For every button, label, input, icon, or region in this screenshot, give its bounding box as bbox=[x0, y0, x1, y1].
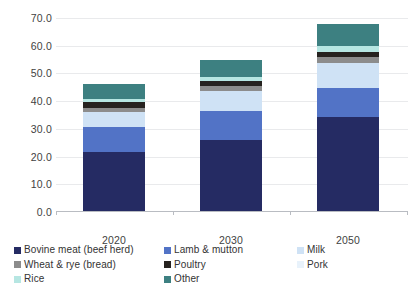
y-tick-label: 70.0 bbox=[6, 12, 52, 24]
bar-group-2030[interactable] bbox=[200, 18, 262, 211]
plot-wrapper: 70.0 60.0 50.0 40.0 30.0 20.0 10.0 0.0 bbox=[0, 0, 418, 232]
legend-item-rice[interactable]: Rice bbox=[14, 272, 164, 287]
legend-swatch-icon bbox=[14, 261, 21, 268]
legend-label: Lamb & mutton bbox=[174, 245, 243, 255]
y-tick-label: 30.0 bbox=[6, 123, 52, 135]
y-axis: 70.0 60.0 50.0 40.0 30.0 20.0 10.0 0.0 bbox=[0, 0, 52, 232]
legend-item-bovine-meat[interactable]: Bovine meat (beef herd) bbox=[14, 243, 164, 258]
axis-tick bbox=[173, 212, 174, 215]
legend-column-2: Lamb & mutton Poultry Other bbox=[164, 243, 294, 287]
y-tick-label: 40.0 bbox=[6, 95, 52, 107]
legend-item-poultry[interactable]: Poultry bbox=[164, 258, 294, 273]
bar-segment-other[interactable] bbox=[317, 24, 379, 46]
legend-swatch-icon bbox=[164, 247, 171, 254]
bar-segment-bovine-meat[interactable] bbox=[200, 140, 262, 211]
bar-segment-milk[interactable] bbox=[317, 63, 379, 88]
y-tick-label: 50.0 bbox=[6, 67, 52, 79]
bar-segment-other[interactable] bbox=[200, 60, 262, 77]
y-tick-label: 60.0 bbox=[6, 40, 52, 52]
legend-swatch-icon bbox=[297, 247, 304, 254]
bar-segment-lamb-mutton[interactable] bbox=[200, 111, 262, 140]
legend-item-milk[interactable]: Milk bbox=[297, 243, 407, 258]
legend-label: Rice bbox=[24, 274, 44, 284]
legend-swatch-icon bbox=[14, 247, 21, 254]
bar-segment-bovine-meat[interactable] bbox=[83, 152, 145, 211]
legend-label: Bovine meat (beef herd) bbox=[24, 245, 134, 255]
legend-item-lamb-mutton[interactable]: Lamb & mutton bbox=[164, 243, 294, 258]
legend-swatch-icon bbox=[14, 276, 21, 283]
legend-swatch-icon bbox=[164, 261, 171, 268]
legend-swatch-icon bbox=[164, 276, 171, 283]
legend-label: Milk bbox=[307, 245, 325, 255]
bar-segment-lamb-mutton[interactable] bbox=[83, 127, 145, 152]
bar-group-2020[interactable] bbox=[83, 18, 145, 211]
plot-area: 2020 2030 2050 bbox=[56, 18, 408, 212]
chart-legend: Bovine meat (beef herd) Wheat & rye (bre… bbox=[14, 243, 410, 289]
bar-segment-milk[interactable] bbox=[83, 112, 145, 127]
x-axis-line bbox=[56, 211, 408, 212]
bar-segment-milk[interactable] bbox=[200, 91, 262, 112]
axis-tick bbox=[407, 212, 408, 215]
bar-segment-bovine-meat[interactable] bbox=[317, 117, 379, 211]
legend-label: Pork bbox=[307, 260, 328, 270]
y-tick-label: 10.0 bbox=[6, 178, 52, 190]
bar-segment-other[interactable] bbox=[83, 84, 145, 99]
legend-swatch-icon bbox=[297, 261, 304, 268]
bar-stack bbox=[317, 18, 379, 211]
bar-group-2050[interactable] bbox=[317, 18, 379, 211]
legend-item-other[interactable]: Other bbox=[164, 272, 294, 287]
legend-item-wheat-rye[interactable]: Wheat & rye (bread) bbox=[14, 258, 164, 273]
stacked-bar-chart: 70.0 60.0 50.0 40.0 30.0 20.0 10.0 0.0 bbox=[0, 0, 418, 294]
bar-stack bbox=[83, 18, 145, 211]
legend-label: Poultry bbox=[174, 260, 206, 270]
axis-tick bbox=[290, 212, 291, 215]
legend-label: Other bbox=[174, 274, 200, 284]
legend-item-pork[interactable]: Pork bbox=[297, 258, 407, 273]
legend-column-1: Bovine meat (beef herd) Wheat & rye (bre… bbox=[14, 243, 164, 287]
legend-column-3: Milk Pork bbox=[297, 243, 407, 272]
legend-label: Wheat & rye (bread) bbox=[24, 260, 116, 270]
bar-stack bbox=[200, 18, 262, 211]
y-tick-label: 0.0 bbox=[6, 206, 52, 218]
axis-tick bbox=[56, 212, 57, 215]
y-tick-label: 20.0 bbox=[6, 151, 52, 163]
bar-segment-lamb-mutton[interactable] bbox=[317, 88, 379, 117]
